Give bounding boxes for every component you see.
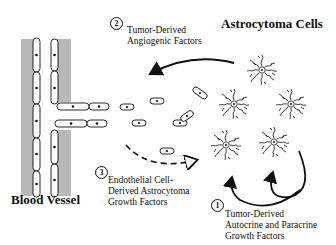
angiogenic-arrow <box>150 59 234 74</box>
label-number-2: 2 <box>110 17 123 30</box>
label-number-1: 1 <box>211 199 224 212</box>
astrocytoma-title: Astrocytoma Cells <box>221 16 323 32</box>
astrocytoma-cells <box>211 55 306 160</box>
endothelial-label: Endothelial Cell- Derived Astrocytoma Gr… <box>108 175 190 208</box>
autocrine-label: Tumor-Derived Autocrine and Paracrine Gr… <box>225 209 317 242</box>
label-number-3: 3 <box>95 166 108 179</box>
blood-vessel-title: Blood Vessel <box>11 192 80 208</box>
angiogenic-label: Tumor-Derived Angiogenic Factors <box>127 25 202 47</box>
growth-factor-dashed-arrow <box>126 145 196 164</box>
migrating-endothelial-cells <box>120 86 208 154</box>
paracrine-arrow <box>231 177 300 206</box>
